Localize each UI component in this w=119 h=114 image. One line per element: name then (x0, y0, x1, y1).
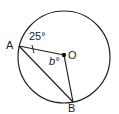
circle-figure: A O B 25° b° (0, 0, 119, 114)
label-B: B (68, 102, 75, 114)
angle-label-O: b° (49, 55, 60, 67)
segment-OB (64, 55, 73, 102)
label-A: A (6, 39, 14, 51)
angle-label-A: 25° (29, 30, 46, 42)
geometry-diagram: A O B 25° b° (0, 0, 119, 114)
center-point (62, 53, 66, 57)
label-O: O (68, 49, 77, 61)
